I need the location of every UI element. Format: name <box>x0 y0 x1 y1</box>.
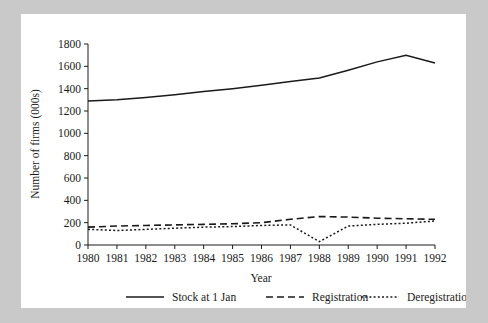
y-tick-label: 200 <box>64 217 82 229</box>
y-axis-title: Number of firms (000s) <box>29 89 42 199</box>
y-tick-label: 1400 <box>58 83 81 95</box>
legend-label-1: Registration <box>312 291 368 304</box>
x-tick-label: 1980 <box>77 252 100 264</box>
series-line-2 <box>88 221 435 242</box>
x-tick-label: 1981 <box>105 252 128 264</box>
y-tick-label: 0 <box>75 239 81 251</box>
y-tick-label: 1600 <box>58 60 81 72</box>
x-tick-label: 1991 <box>395 252 418 264</box>
x-tick-label: 1987 <box>279 252 302 264</box>
y-tick-label: 800 <box>64 150 82 162</box>
data-series-group <box>88 55 435 241</box>
series-line-0 <box>88 55 435 101</box>
x-tick-label: 1988 <box>308 252 331 264</box>
x-axis-ticks <box>88 245 435 249</box>
chart-page: 020040060080010001200140016001800 198019… <box>0 0 488 323</box>
x-axis-title: Year <box>250 272 271 284</box>
y-axis-ticks <box>84 44 88 245</box>
x-tick-label: 1983 <box>163 252 186 264</box>
x-tick-label: 1984 <box>192 252 215 264</box>
line-chart: 020040060080010001200140016001800 198019… <box>21 14 466 308</box>
y-tick-label: 1000 <box>58 127 81 139</box>
x-tick-label: 1982 <box>134 252 157 264</box>
legend-label-0: Stock at 1 Jan <box>172 291 236 303</box>
x-tick-label: 1989 <box>337 252 360 264</box>
y-tick-label: 1200 <box>58 105 81 117</box>
legend-label-2: Deregistration <box>407 291 466 304</box>
y-tick-label: 600 <box>64 172 82 184</box>
x-axis-tick-labels: 1980198119821983198419851986198719881989… <box>77 252 447 264</box>
x-tick-label: 1992 <box>424 252 447 264</box>
y-axis-tick-labels: 020040060080010001200140016001800 <box>58 38 81 251</box>
y-tick-label: 1800 <box>58 38 81 50</box>
chart-legend: Stock at 1 JanRegistrationDeregistration <box>126 291 466 304</box>
x-tick-label: 1985 <box>221 252 244 264</box>
x-tick-label: 1986 <box>250 252 273 264</box>
chart-card: 020040060080010001200140016001800 198019… <box>21 14 466 308</box>
y-tick-label: 400 <box>64 194 82 206</box>
x-tick-label: 1990 <box>366 252 389 264</box>
